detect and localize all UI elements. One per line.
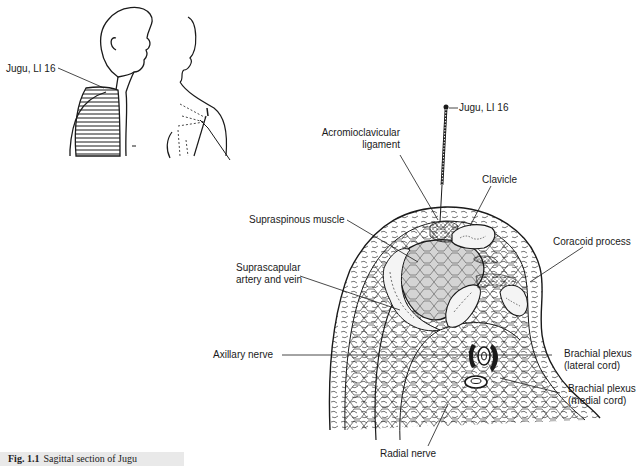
figure-caption: Fig. 1.1Sagittal section of Jugu [0,452,184,466]
clavicle-label: Clavicle [482,174,517,186]
supraspinous-muscle-label: Supraspinous muscle [249,214,345,226]
caption-text: Sagittal section of Jugu [43,453,137,464]
radial-nerve-label: Radial nerve [380,448,436,460]
axillary-nerve-label: Axillary nerve [213,349,273,361]
anatomical-illustration [0,0,644,466]
acupuncture-needle [440,105,449,223]
jugu-label-needle: Jugu, LI 16 [459,102,508,114]
jugu-label-overview: Jugu, LI 16 [6,63,55,75]
suprascapular-artery-vein-label: Suprascapular artery and vein [236,262,302,286]
brachial-plexus-medial-label: Brachial plexus (medial cord) [568,383,636,407]
back-view-figure [167,17,230,160]
side-view-figure [70,7,152,156]
leader-line [58,68,104,88]
coracoid-process-label: Coracoid process [553,236,631,248]
acromioclavicular-ligament-label: Acromioclavicular ligament [300,127,400,151]
caption-number: Fig. 1.1 [8,453,39,464]
brachial-plexus-lateral-label: Brachial plexus (lateral cord) [564,348,632,372]
figure-canvas: Jugu, LI 16 Jugu, LI 16 Acromioclavicula… [0,0,644,466]
